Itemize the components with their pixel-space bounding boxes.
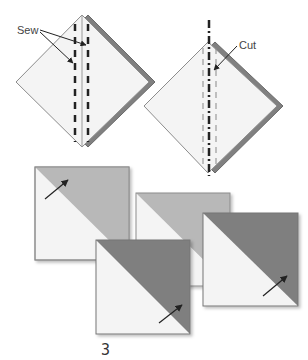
quilt-diagram: Sew Cut 3 [0,0,308,360]
sew-panel: Sew [16,15,155,147]
half-square-triangle-3 [96,240,190,334]
sew-label: Sew [17,24,38,36]
half-square-triangle-4 [203,213,298,306]
cut-label: Cut [239,39,256,51]
step-number: 3 [101,341,110,359]
front-square [144,42,277,173]
cut-panel: Cut [144,20,283,176]
